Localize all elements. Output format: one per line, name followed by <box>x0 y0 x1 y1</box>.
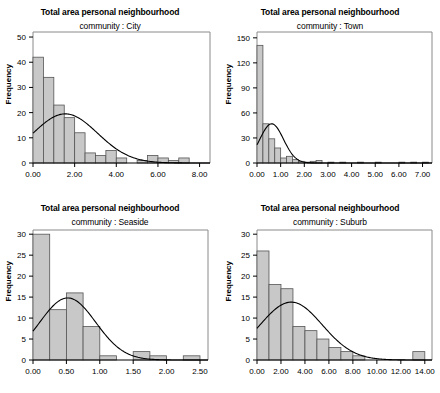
x-axis-tick-label: 2.50 <box>192 367 208 376</box>
y-axis-tick-label: 30 <box>17 83 26 92</box>
histogram-bar <box>269 139 275 163</box>
histogram-bar <box>64 118 74 163</box>
histogram-bar <box>287 156 293 163</box>
y-axis-tick-label: 30 <box>241 230 250 239</box>
x-axis-tick-label: 5.00 <box>367 170 383 179</box>
y-axis-tick-label: 5 <box>246 335 251 344</box>
x-axis-tick-label: 4.00 <box>109 170 125 179</box>
y-axis-tick-label: 40 <box>17 58 26 67</box>
y-axis-tick-label: 20 <box>17 272 26 281</box>
y-axis-tick-label: 0 <box>246 356 251 365</box>
y-axis-tick-label: 120 <box>237 59 251 68</box>
panel-suburb: Total area personal neighbourhood commun… <box>220 196 440 393</box>
panel-town: Total area personal neighbourhood commun… <box>220 0 440 196</box>
histogram-bar <box>33 234 50 360</box>
y-axis-tick-label: 20 <box>17 109 26 118</box>
histogram-bar <box>83 326 100 360</box>
plot-area-suburb: 0.002.004.006.008.0010.0012.0014.0005101… <box>220 196 440 393</box>
histogram-bar <box>263 124 269 163</box>
histogram-bar <box>281 158 287 163</box>
x-axis-tick-label: 4.00 <box>297 367 313 376</box>
y-axis-tick-label: 0 <box>246 159 251 168</box>
x-axis-tick-label: 4.00 <box>344 170 360 179</box>
x-axis-tick-label: 0.00 <box>249 367 265 376</box>
histogram-bar <box>95 155 105 163</box>
x-axis-tick-label: 1.50 <box>125 367 141 376</box>
y-axis-tick-label: 25 <box>17 251 26 260</box>
y-axis-tick-label: 30 <box>17 230 26 239</box>
x-axis-tick-label: 0.00 <box>25 367 41 376</box>
x-axis-tick-label: 8.00 <box>192 170 208 179</box>
histogram-bar <box>269 285 281 360</box>
histogram-bar <box>329 347 341 360</box>
plot-area-seaside: 0.000.501.001.502.002.50051015202530 <box>0 196 220 393</box>
plot-area-town: 0.001.002.003.004.005.006.007.0003060901… <box>220 0 440 196</box>
x-axis-tick-label: 6.00 <box>391 170 407 179</box>
x-axis-tick-label: 14.00 <box>415 367 436 376</box>
panel-city: Total area personal neighbourhood commun… <box>0 0 220 196</box>
y-axis-tick-label: 5 <box>22 335 27 344</box>
x-axis-tick-label: 0.00 <box>25 170 41 179</box>
histogram-bar <box>75 133 85 163</box>
y-axis-tick-label: 150 <box>237 34 251 43</box>
x-axis-tick-label: 0.00 <box>249 170 265 179</box>
plot-area-city: 0.002.004.006.008.0001020304050 <box>0 0 220 196</box>
x-axis-tick-label: 2.00 <box>273 367 289 376</box>
histogram-bar <box>179 158 189 163</box>
panel-seaside: Total area personal neighbourhood commun… <box>0 196 220 393</box>
histogram-figure: Total area personal neighbourhood commun… <box>0 0 440 393</box>
histogram-bar <box>292 160 298 163</box>
x-axis-tick-label: 2.00 <box>297 170 313 179</box>
histogram-bar <box>257 45 263 163</box>
histogram-bar <box>281 289 293 360</box>
histogram-bar <box>100 356 117 360</box>
x-axis-tick-label: 8.00 <box>345 367 361 376</box>
y-axis-tick-label: 10 <box>17 314 26 323</box>
y-axis-tick-label: 0 <box>22 159 27 168</box>
histogram-bar <box>257 251 269 360</box>
x-axis-tick-label: 10.00 <box>367 367 388 376</box>
x-axis-tick-label: 6.00 <box>150 170 166 179</box>
histogram-bar <box>33 57 43 163</box>
x-axis-tick-label: 2.00 <box>159 367 175 376</box>
y-axis-tick-label: 30 <box>241 134 250 143</box>
y-axis-tick-label: 0 <box>22 356 27 365</box>
histogram-bar <box>305 331 317 360</box>
y-axis-tick-label: 60 <box>241 109 250 118</box>
y-axis-tick-label: 25 <box>241 251 250 260</box>
x-axis-tick-label: 0.50 <box>59 367 75 376</box>
normal-fit-curve <box>257 124 432 163</box>
x-axis-tick-label: 12.00 <box>391 367 412 376</box>
y-axis-tick-label: 10 <box>241 314 250 323</box>
x-axis-tick-label: 7.00 <box>415 170 431 179</box>
histogram-bar <box>66 293 83 360</box>
histogram-bar <box>85 153 95 163</box>
y-axis-tick-label: 20 <box>241 272 250 281</box>
histogram-bar <box>293 326 305 360</box>
histogram-bar <box>317 339 329 360</box>
histogram-bar <box>413 352 425 360</box>
y-axis-tick-label: 15 <box>17 293 26 302</box>
histogram-bar <box>183 356 200 360</box>
y-axis-tick-label: 15 <box>241 293 250 302</box>
x-axis-tick-label: 2.00 <box>67 170 83 179</box>
histogram-bar <box>116 158 126 163</box>
x-axis-tick-label: 1.00 <box>92 367 108 376</box>
x-axis-tick-label: 1.00 <box>273 170 289 179</box>
histogram-bar <box>50 310 67 360</box>
y-axis-tick-label: 90 <box>241 84 250 93</box>
y-axis-tick-label: 10 <box>17 134 26 143</box>
x-axis-tick-label: 6.00 <box>321 367 337 376</box>
x-axis-tick-label: 3.00 <box>320 170 336 179</box>
histogram-bar <box>106 150 116 163</box>
histogram-bar <box>275 148 281 163</box>
histogram-bar <box>341 352 353 360</box>
y-axis-tick-label: 50 <box>17 33 26 42</box>
